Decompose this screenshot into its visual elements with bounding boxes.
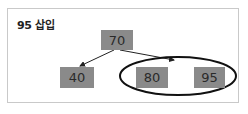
node-left: 40	[60, 67, 94, 88]
node-root: 70	[101, 30, 133, 50]
node-middle: 80	[136, 67, 168, 88]
tree-edges	[0, 0, 248, 114]
node-inserted: 95	[194, 67, 225, 88]
edge-70-80	[120, 50, 174, 60]
edge-70-40	[80, 50, 114, 66]
